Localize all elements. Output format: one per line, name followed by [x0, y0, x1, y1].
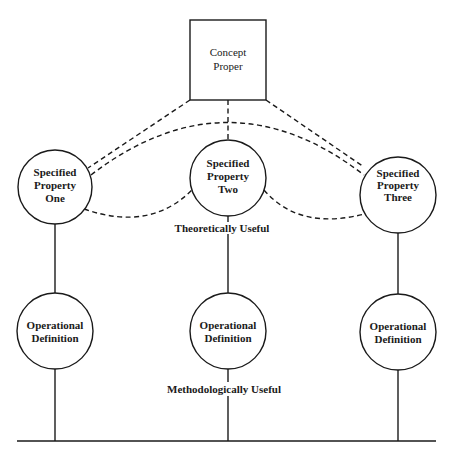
op1-line-2: Definition: [31, 332, 78, 344]
prop2-line-3: Two: [218, 183, 238, 195]
dashed-arc-prop2-prop3: [264, 190, 368, 219]
prop3-line-1: Specified: [377, 167, 420, 179]
prop2-line-2: Property: [207, 170, 249, 182]
prop3-line-3: Three: [384, 191, 412, 203]
prop1-line-2: Property: [34, 179, 76, 191]
operational-definition-two-node: [190, 293, 266, 369]
prop1-line-3: One: [45, 192, 65, 204]
dashed-concept-prop3: [266, 100, 364, 167]
operational-definition-one-node: [17, 293, 93, 369]
op3-line-1: Operational: [370, 320, 427, 332]
theoretically-useful-label: Theoretically Useful: [175, 222, 270, 234]
prop1-line-1: Specified: [34, 166, 77, 178]
op3-line-2: Definition: [374, 333, 421, 345]
concept-line-2: Proper: [213, 60, 243, 72]
prop3-line-2: Property: [377, 179, 419, 191]
op2-line-1: Operational: [200, 319, 257, 331]
dashed-arc-prop1-prop2: [84, 190, 192, 217]
op1-line-1: Operational: [27, 319, 84, 331]
dashed-concept-prop1: [88, 100, 190, 168]
op2-line-2: Definition: [204, 332, 251, 344]
prop2-line-1: Specified: [207, 157, 250, 169]
operational-definition-three-node: [360, 294, 436, 370]
concept-diagram: Concept Proper Specified Property One Sp…: [0, 0, 452, 458]
concept-line-1: Concept: [210, 46, 247, 58]
methodologically-useful-label: Methodologically Useful: [167, 383, 281, 395]
